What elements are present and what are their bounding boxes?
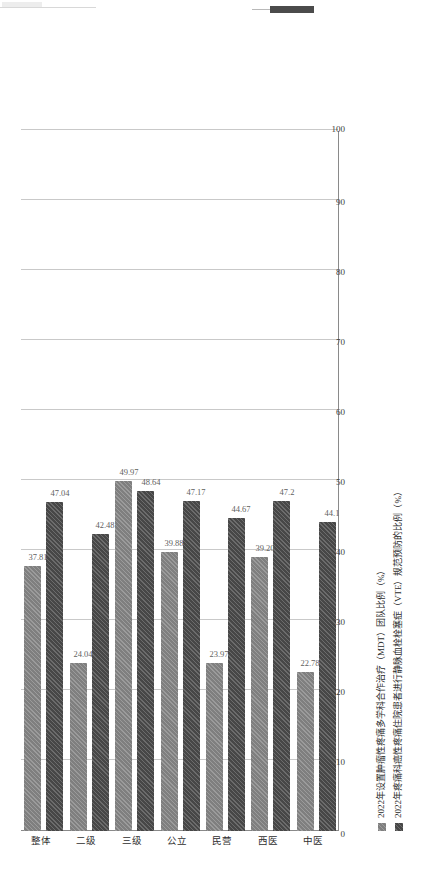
gridline [21,339,338,340]
top-marker-leader-line [252,9,270,10]
gridline [21,269,338,270]
category-label: 三级 [122,833,142,847]
category-label: 二级 [76,833,96,847]
gridline [21,689,338,690]
category-label: 中医 [303,833,323,847]
category-label: 民营 [212,833,232,847]
bar [24,566,41,831]
bar-value-label: 47.04 [50,488,69,498]
legend-swatch-icon [395,823,403,831]
chart-rotated-stage: 0102030405060708090100 整体二级三级公立民营西医中医 37… [5,27,437,887]
x-tick-label: 80 [336,267,345,277]
gridline [21,479,338,480]
bar-value-label: 44.67 [232,504,251,514]
bar [206,663,223,831]
x-tick-label: 0 [341,829,346,839]
category-label: 西医 [258,833,278,847]
top-marker-bar [270,6,314,13]
x-tick-label: 30 [336,617,345,627]
category-label: 公立 [167,833,187,847]
bar [161,552,178,831]
chart-figure: 0102030405060708090100 整体二级三级公立民营西医中医 37… [0,18,442,896]
x-tick-label: 70 [336,337,345,347]
x-tick-label: 90 [336,197,345,207]
legend-label: 2022年疼痛科癌性疼痛住院患者进行静脉血栓栓塞症（VTE）规范预防的比例（%） [394,487,403,818]
bar [183,501,200,831]
bar [251,557,268,831]
gridline [21,759,338,760]
gridline [21,409,338,410]
bar-value-label: 23.97 [210,649,229,659]
x-tick-label: 10 [336,757,345,767]
bar-value-label: 37.81 [28,552,47,562]
bar [70,663,87,831]
x-tick-label: 20 [336,687,345,697]
legend-item[interactable]: 2022年设置肿瘤性疼痛多学科合作治疗（MDT）团队比例（%） [377,566,386,832]
x-tick-label: 40 [336,547,345,557]
x-tick-label: 50 [336,477,345,487]
bar [137,491,154,831]
bar-value-label: 22.78 [301,658,320,668]
bar-value-label: 48.64 [141,477,160,487]
gridline [21,549,338,550]
bar-value-label: 42.48 [96,520,115,530]
bar-value-label: 44.1 [325,508,340,518]
bar [228,518,245,831]
bar-value-label: 47.17 [186,487,205,497]
bar [46,502,63,831]
x-tick-label: 60 [336,407,345,417]
legend-swatch-icon [378,823,386,831]
category-label: 整体 [31,833,51,847]
chart-legend: 2022年设置肿瘤性疼痛多学科合作治疗（MDT）团队比例（%）2022年疼痛科癌… [377,131,429,831]
bar [273,501,290,831]
gridline [21,199,338,200]
legend-item[interactable]: 2022年疼痛科癌性疼痛住院患者进行静脉血栓栓塞症（VTE）规范预防的比例（%） [394,487,403,831]
page-edge-rule [0,7,96,8]
bar-value-label: 39.88 [164,538,183,548]
bar-value-label: 39.20 [255,543,274,553]
gridline [21,129,338,130]
gridline [21,619,338,620]
bar [115,481,132,831]
x-tick-label: 100 [332,124,346,134]
bar [92,534,109,831]
legend-label: 2022年设置肿瘤性疼痛多学科合作治疗（MDT）团队比例（%） [377,566,386,819]
bar-value-label: 24.04 [74,649,93,659]
bar [297,672,314,831]
bar-value-label: 47.2 [279,487,294,497]
bar [319,522,336,831]
bar-value-label: 49.97 [119,467,138,477]
